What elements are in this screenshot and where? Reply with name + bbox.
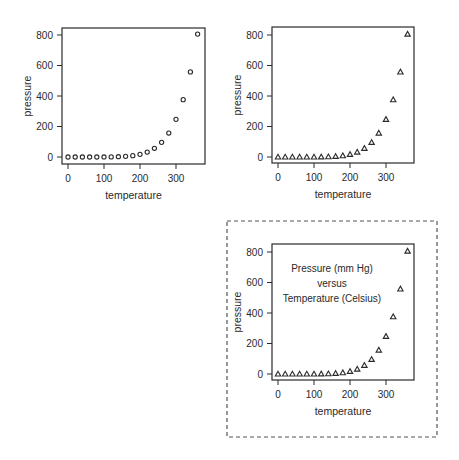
x-tick-label: 200: [342, 389, 359, 400]
x-tick-label: 0: [275, 172, 281, 183]
x-tick-label: 300: [168, 173, 185, 184]
y-tick-label: 600: [246, 60, 263, 71]
y-tick-label: 200: [246, 121, 263, 132]
annotation-line: Pressure (mm Hg): [291, 263, 373, 274]
y-tick-label: 600: [246, 277, 263, 288]
figure-canvas: 02004006008000100200300temperaturepressu…: [0, 0, 459, 460]
y-tick-label: 0: [257, 152, 263, 163]
y-tick-label: 0: [257, 369, 263, 380]
x-tick-label: 0: [65, 173, 71, 184]
x-axis-label: temperature: [315, 188, 372, 200]
y-tick-label: 400: [36, 91, 53, 102]
y-tick-label: 200: [36, 121, 53, 132]
y-tick-label: 800: [36, 30, 53, 41]
y-tick-label: 0: [47, 152, 53, 163]
y-tick-label: 600: [36, 60, 53, 71]
x-tick-label: 200: [342, 172, 359, 183]
x-axis-label: temperature: [105, 189, 162, 201]
x-tick-label: 300: [378, 389, 395, 400]
x-tick-label: 100: [96, 173, 113, 184]
x-axis-label: temperature: [315, 405, 372, 417]
x-tick-label: 100: [306, 389, 323, 400]
y-tick-label: 400: [246, 91, 263, 102]
y-tick-label: 800: [246, 30, 263, 41]
annotation-line: Temperature (Celsius): [283, 293, 381, 304]
y-axis-label: pressure: [21, 75, 33, 116]
x-tick-label: 200: [132, 173, 149, 184]
x-tick-label: 300: [378, 172, 395, 183]
x-tick-label: 0: [275, 389, 281, 400]
annotation-line: versus: [317, 278, 346, 289]
y-axis-label: pressure: [231, 291, 243, 332]
y-tick-label: 800: [246, 247, 263, 258]
y-tick-label: 200: [246, 338, 263, 349]
x-tick-label: 100: [306, 172, 323, 183]
y-axis-label: pressure: [231, 74, 243, 115]
y-tick-label: 400: [246, 308, 263, 319]
